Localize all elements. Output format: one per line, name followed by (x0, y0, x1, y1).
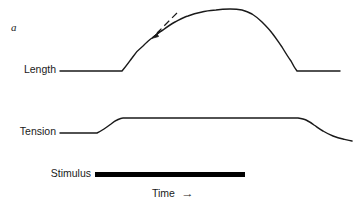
physiology-trace-figure: a Length Tension Stimulus Time → (0, 0, 360, 212)
length-trace-label: Length (0, 64, 56, 75)
stimulus-trace-label: Stimulus (0, 168, 91, 179)
right-arrow-icon: → (181, 188, 194, 199)
tension-trace-label: Tension (0, 126, 56, 137)
tension-trace (60, 118, 352, 141)
time-axis-caption: Time → (152, 188, 193, 199)
stimulus-bar (95, 172, 245, 177)
dashed-pointer-arrow (152, 13, 178, 39)
time-axis-text: Time (152, 188, 175, 199)
trace-plot-svg (0, 0, 360, 212)
panel-letter: a (11, 22, 17, 33)
length-trace (60, 9, 340, 71)
